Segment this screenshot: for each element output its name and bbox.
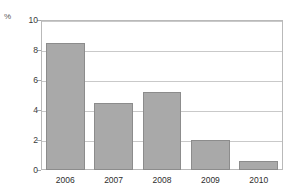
bars-group <box>41 20 283 170</box>
bar-2009 <box>191 140 230 170</box>
bar-2006 <box>46 43 85 171</box>
y-tick-label: 8 <box>8 46 38 55</box>
x-tick-label-2008: 2008 <box>138 175 186 185</box>
bar-chart: % 0246810 20062007200820092010 <box>0 0 296 196</box>
y-tick-label: 2 <box>8 136 38 145</box>
y-tick-label: 4 <box>8 106 38 115</box>
x-tick-label-2006: 2006 <box>41 175 89 185</box>
bar-2007 <box>94 103 133 171</box>
y-tick-label: 10 <box>8 16 38 25</box>
x-tick-label-2009: 2009 <box>186 175 234 185</box>
bar-2008 <box>143 92 182 170</box>
x-tick-label-2010: 2010 <box>235 175 283 185</box>
x-tick-label-2007: 2007 <box>89 175 137 185</box>
y-tick-label: 0 <box>8 166 38 175</box>
bar-2010 <box>239 161 278 170</box>
y-tick-label: 6 <box>8 76 38 85</box>
